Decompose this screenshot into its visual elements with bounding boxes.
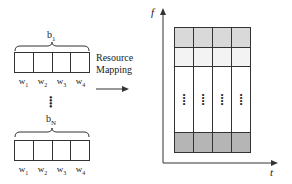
grid-row-1 [175, 28, 250, 48]
grid-row-ellipsis: •••• •••• •••• •••• [175, 67, 250, 133]
y-axis-label: f [151, 6, 154, 18]
ellipsis-vertical: •••• [220, 94, 223, 106]
ellipsis-vertical: •••• [201, 94, 204, 106]
x-axis-label: t [270, 166, 273, 178]
resource-grid: •••• •••• •••• •••• [174, 27, 251, 153]
grid-row-2 [175, 48, 250, 67]
ellipsis-vertical: •••• [239, 94, 242, 106]
ellipsis-vertical: •••• [182, 94, 185, 106]
grid-row-last [175, 133, 250, 152]
